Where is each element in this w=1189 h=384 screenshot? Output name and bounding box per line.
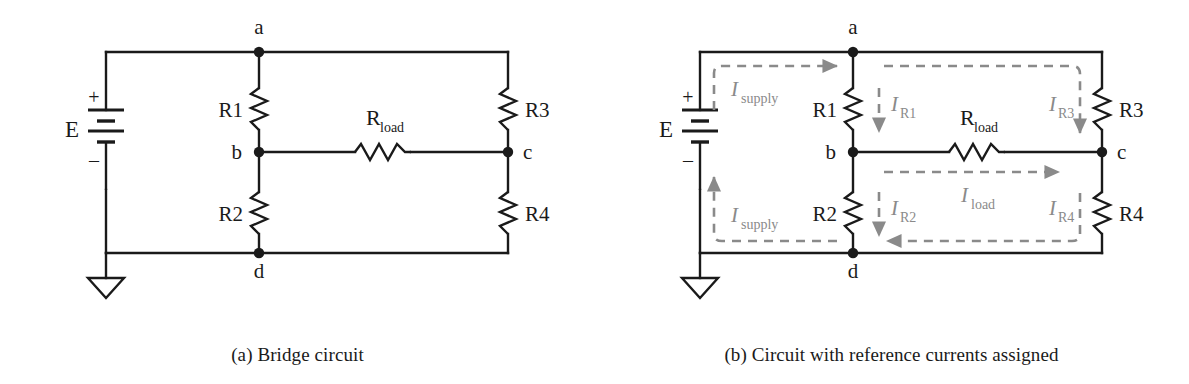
rload-label-main: R: [960, 105, 975, 130]
resistor-label-r3: R3: [525, 98, 550, 122]
resistor-label-r2: R2: [218, 202, 243, 226]
node-label-a: a: [848, 15, 858, 39]
polarity-minus: –: [88, 149, 100, 171]
figure-root: a b c d E + – R1 R2 R3 R4 R load (a) Bri…: [0, 0, 1189, 384]
resistor-symbol-rload: [355, 144, 411, 160]
resistor-label-r1: R1: [812, 98, 837, 122]
isupply-top-symbol: I: [730, 77, 739, 101]
iload-subscript: load: [971, 197, 995, 212]
node-dot-c: [503, 147, 513, 157]
ir4-symbol: I: [1048, 196, 1057, 220]
resistor-symbol-r1: [251, 88, 267, 130]
node-dot-b: [848, 147, 858, 157]
resistor-symbol-rload: [949, 144, 1005, 160]
resistor-symbol-r2: [845, 192, 861, 234]
current-label-iload: I load: [960, 183, 995, 212]
current-label-ir1: I R1: [890, 92, 916, 121]
node-dot-d: [848, 248, 858, 258]
polarity-plus: +: [88, 86, 99, 108]
resistor-symbol-r4: [500, 192, 516, 234]
node-label-b: b: [232, 140, 243, 164]
resistor-symbol-r1: [845, 88, 861, 130]
isupply-top-subscript: supply: [741, 91, 778, 106]
node-label-a: a: [254, 15, 264, 39]
node-label-c: c: [1117, 140, 1126, 164]
polarity-minus: –: [682, 149, 694, 171]
node-label-d: d: [254, 259, 265, 283]
ir3-symbol: I: [1048, 92, 1057, 116]
rload-label-sub: load: [380, 120, 404, 135]
isupply-bottom-symbol: I: [730, 203, 739, 227]
ir1-symbol: I: [890, 92, 899, 116]
source-label-e: E: [65, 117, 79, 142]
current-label-isupply-bottom: I supply: [730, 203, 778, 232]
current-label-isupply-top: I supply: [730, 77, 778, 106]
current-label-ir3: I R3: [1048, 92, 1074, 121]
resistor-label-r1: R1: [218, 98, 243, 122]
ground-icon: [88, 278, 124, 298]
rload-label-main: R: [366, 105, 381, 130]
ir1-subscript: R1: [900, 106, 916, 121]
node-label-c: c: [523, 140, 532, 164]
current-label-ir2: I R2: [890, 196, 916, 225]
node-label-b: b: [826, 140, 837, 164]
circuit-diagram-a: a b c d E + – R1 R2 R3 R4 R load: [0, 0, 595, 384]
ir4-subscript: R4: [1058, 210, 1074, 225]
rload-label-sub: load: [974, 120, 998, 135]
current-label-ir4: I R4: [1048, 196, 1074, 225]
ir2-symbol: I: [890, 196, 899, 220]
resistor-symbol-r3: [1094, 88, 1110, 130]
caption-panel-b: (b) Circuit with reference currents assi…: [594, 344, 1189, 366]
resistor-symbol-r2: [251, 192, 267, 234]
resistor-label-r2: R2: [812, 202, 837, 226]
ir3-subscript: R3: [1058, 106, 1074, 121]
source-label-e: E: [659, 117, 673, 142]
node-dot-b: [254, 147, 264, 157]
polarity-plus: +: [682, 86, 693, 108]
circuit-diagram-b: a b c d E + – R1 R2 R3 R4 R load I suppl…: [594, 0, 1189, 384]
resistor-label-r3: R3: [1119, 98, 1144, 122]
node-dot-c: [1097, 147, 1107, 157]
ground-icon: [682, 278, 718, 298]
node-label-d: d: [848, 259, 859, 283]
resistor-label-r4: R4: [1119, 202, 1144, 226]
caption-panel-a: (a) Bridge circuit: [0, 344, 595, 366]
resistor-label-rload: R load: [960, 105, 998, 135]
resistor-symbol-r4: [1094, 192, 1110, 234]
resistor-label-r4: R4: [525, 202, 550, 226]
isupply-bottom-subscript: supply: [741, 217, 778, 232]
resistor-label-rload: R load: [366, 105, 404, 135]
iload-symbol: I: [960, 183, 969, 207]
ir2-subscript: R2: [900, 210, 916, 225]
node-dot-a: [848, 47, 858, 57]
node-dot-a: [254, 47, 264, 57]
panel-reference-currents: a b c d E + – R1 R2 R3 R4 R load I suppl…: [594, 0, 1189, 384]
resistor-symbol-r3: [500, 88, 516, 130]
node-dot-d: [254, 248, 264, 258]
panel-bridge-circuit: a b c d E + – R1 R2 R3 R4 R load (a) Bri…: [0, 0, 595, 384]
